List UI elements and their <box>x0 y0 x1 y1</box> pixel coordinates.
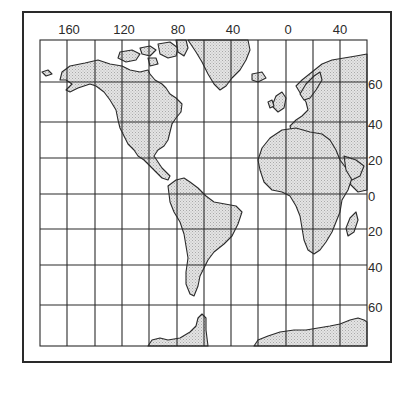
latitude-label: 40 <box>368 118 382 131</box>
world-map <box>0 0 414 396</box>
longitude-label: 160 <box>58 23 80 36</box>
latitude-label: 60 <box>368 301 382 314</box>
latitude-label: 20 <box>368 154 382 167</box>
latitude-label: 60 <box>368 78 382 91</box>
longitude-label: 0 <box>284 23 291 36</box>
longitude-label: 40 <box>226 23 240 36</box>
antarctica-east <box>254 318 367 346</box>
longitude-label: 40 <box>333 23 347 36</box>
latitude-label: 40 <box>368 261 382 274</box>
longitude-label: 80 <box>171 23 185 36</box>
north-america <box>60 60 182 180</box>
latitude-label: 20 <box>368 225 382 238</box>
antarctica-west <box>148 314 208 346</box>
longitude-label: 120 <box>113 23 135 36</box>
latitude-label: 0 <box>368 190 375 203</box>
